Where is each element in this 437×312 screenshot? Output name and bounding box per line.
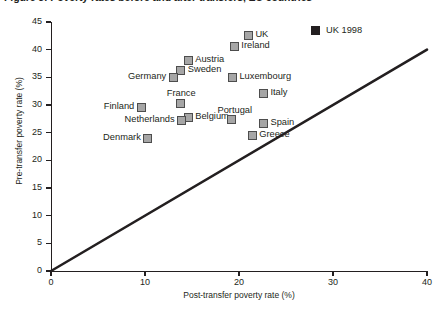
data-point-label-greece: Greece [259, 129, 290, 139]
y-tick-20 [46, 160, 51, 161]
data-point-label-spain: Spain [270, 117, 294, 127]
x-tick-40 [426, 271, 427, 276]
legend-swatch-uk-1998 [311, 26, 320, 35]
data-point-label-italy: Italy [270, 87, 287, 97]
data-point-label-denmark: Denmark [103, 132, 141, 142]
x-tick-label-10: 10 [125, 277, 165, 287]
data-point-germany [169, 73, 178, 82]
y-tick-45 [46, 21, 51, 22]
y-tick-label-40: 40 [0, 44, 42, 54]
data-point-italy [259, 89, 268, 98]
data-point-luxembourg [228, 73, 237, 82]
page-title: Figure 3: Poverty rates before and after… [4, 0, 434, 3]
y-axis-line [51, 22, 52, 272]
data-point-spain [259, 119, 268, 128]
y-tick-35 [46, 77, 51, 78]
legend-label-uk-1998: UK 1998 [326, 25, 362, 35]
y-tick-label-45: 45 [0, 16, 42, 26]
data-point-label-germany: Germany [128, 71, 166, 81]
x-tick-30 [332, 271, 333, 276]
x-tick-10 [144, 271, 145, 276]
x-tick-label-40: 40 [407, 277, 437, 287]
data-point-label-portugal: Portugal [217, 105, 252, 115]
data-point-netherlands [177, 116, 186, 125]
y-tick-15 [46, 187, 51, 188]
data-point-portugal [227, 115, 236, 124]
reference-line-45deg [0, 0, 437, 312]
x-tick-20 [238, 271, 239, 276]
y-tick-40 [46, 49, 51, 50]
poverty-scatter-figure: Figure 3: Poverty rates before and after… [0, 0, 437, 312]
data-point-label-ireland: Ireland [241, 40, 269, 50]
x-tick-label-30: 30 [313, 277, 353, 287]
data-point-greece [248, 131, 257, 140]
data-point-label-netherlands: Netherlands [125, 114, 175, 124]
x-tick-label-20: 20 [219, 277, 259, 287]
y-tick-30 [46, 104, 51, 105]
x-axis-title: Post-transfer poverty rate (%) [51, 290, 427, 300]
data-point-label-sweden: Sweden [188, 64, 222, 74]
y-axis-title: Pre-transfer poverty rate (%) [14, 56, 24, 206]
y-tick-25 [46, 132, 51, 133]
data-point-uk [244, 31, 253, 40]
y-tick-label-10: 10 [0, 210, 42, 220]
data-point-label-finland: Finland [104, 101, 135, 111]
data-point-label-luxembourg: Luxembourg [239, 71, 291, 81]
y-tick-label-5: 5 [0, 237, 42, 247]
data-point-denmark [143, 134, 152, 143]
data-point-ireland [230, 42, 239, 51]
y-tick-5 [46, 243, 51, 244]
x-tick-0 [50, 271, 51, 276]
x-tick-label-0: 0 [31, 277, 71, 287]
y-tick-label-0: 0 [0, 265, 42, 275]
data-point-france [176, 99, 185, 108]
chart-legend: UK 1998 [311, 25, 362, 35]
data-point-label-uk: UK [255, 29, 268, 39]
data-point-finland [137, 103, 146, 112]
data-point-label-france: France [167, 88, 196, 98]
y-tick-10 [46, 215, 51, 216]
